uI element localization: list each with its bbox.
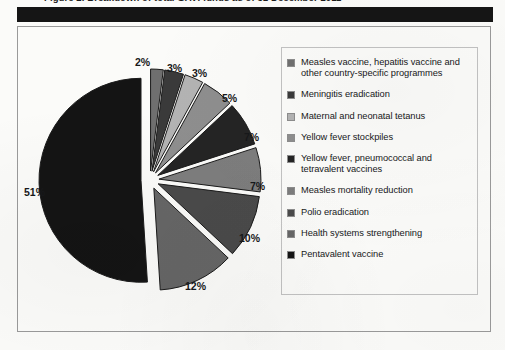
legend-item[interactable]: Health systems strengthening <box>287 228 471 239</box>
legend-swatch-icon <box>287 59 295 67</box>
legend-item[interactable]: Yellow fever stockpiles <box>287 132 471 143</box>
chart-legend: Measles vaccine, hepatitis vaccine and o… <box>281 47 478 295</box>
legend-item[interactable]: Pentavalent vaccine <box>287 249 471 260</box>
legend-item-label: Yellow fever, pneumococcal and tetravale… <box>301 153 471 175</box>
legend-item-label: Measles vaccine, hepatitis vaccine and o… <box>301 57 471 79</box>
pie-slice[interactable] <box>39 78 147 282</box>
pie-value-label: 3% <box>167 63 182 74</box>
legend-item-label: Measles mortality reduction <box>301 185 413 196</box>
legend-item[interactable]: Meningitis eradication <box>287 89 471 100</box>
legend-swatch-icon <box>287 91 295 99</box>
legend-swatch-icon <box>287 230 295 238</box>
pie-value-label: 10% <box>239 233 260 244</box>
legend-item-label: Maternal and neonatal tetanus <box>301 111 425 122</box>
pie-value-label: 5% <box>222 93 237 104</box>
legend-swatch-icon <box>287 187 295 195</box>
pie-chart: 2%3%3%5%7%7%10%12%51% <box>22 48 272 313</box>
legend-item[interactable]: Maternal and neonatal tetanus <box>287 111 471 122</box>
pie-value-label: 3% <box>192 68 207 79</box>
legend-swatch-icon <box>287 134 295 142</box>
legend-swatch-icon <box>287 251 295 259</box>
legend-item-label: Yellow fever stockpiles <box>301 132 393 143</box>
document-page: Figure 2. Breakdown of total GAVI funds … <box>0 0 505 350</box>
figure-caption-text: Figure 2. Breakdown of total GAVI funds … <box>44 0 341 3</box>
legend-item-label: Health systems strengthening <box>301 228 422 239</box>
pie-value-label: 51% <box>24 187 45 198</box>
legend-item[interactable]: Polio eradication <box>287 207 471 218</box>
pie-chart-svg <box>22 48 272 313</box>
legend-item[interactable]: Measles vaccine, hepatitis vaccine and o… <box>287 57 471 79</box>
legend-swatch-icon <box>287 209 295 217</box>
pie-value-label: 7% <box>250 181 265 192</box>
figure-caption-cropped: Figure 2. Breakdown of total GAVI funds … <box>0 0 505 7</box>
legend-item-label: Polio eradication <box>301 207 369 218</box>
pie-value-label: 2% <box>135 57 150 68</box>
legend-item-label: Meningitis eradication <box>301 89 390 100</box>
legend-item[interactable]: Measles mortality reduction <box>287 185 471 196</box>
legend-swatch-icon <box>287 113 295 121</box>
legend-list: Measles vaccine, hepatitis vaccine and o… <box>287 57 471 260</box>
legend-swatch-icon <box>287 155 295 163</box>
black-header-band <box>17 7 493 22</box>
legend-item-label: Pentavalent vaccine <box>301 249 383 260</box>
pie-value-label: 12% <box>185 281 206 292</box>
legend-item[interactable]: Yellow fever, pneumococcal and tetravale… <box>287 153 471 175</box>
pie-value-label: 7% <box>244 132 259 143</box>
